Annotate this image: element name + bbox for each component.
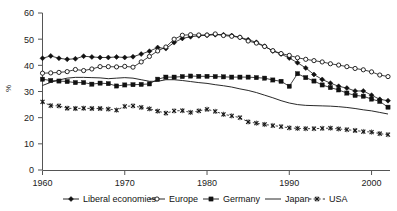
marker-circle [304, 57, 308, 61]
marker-square [361, 94, 365, 98]
legend-item-usa[interactable]: USA [309, 194, 348, 204]
marker-diamond [353, 88, 358, 93]
marker-square [40, 77, 44, 81]
marker-square [106, 82, 110, 86]
marker-circle [73, 67, 77, 71]
marker-square [209, 197, 213, 201]
marker-square [304, 76, 308, 80]
marker-circle [197, 33, 201, 37]
marker-diamond [56, 56, 61, 61]
marker-square [139, 82, 143, 86]
marker-square [197, 74, 201, 78]
line-chart: % 0102030405060 19601970198019902000 Lib… [0, 0, 397, 211]
marker-circle [98, 65, 102, 69]
marker-circle [131, 65, 135, 69]
marker-diamond [65, 57, 70, 62]
legend-item-japan[interactable]: Japan [265, 194, 310, 204]
marker-square [345, 91, 349, 95]
chart-container: % 0102030405060 19601970198019902000 Lib… [0, 0, 397, 211]
marker-circle [279, 51, 283, 55]
marker-circle [254, 41, 258, 45]
legend-label: Liberal economies [83, 194, 157, 204]
marker-square [230, 75, 234, 79]
marker-diamond [106, 55, 111, 60]
marker-circle [386, 74, 390, 78]
marker-circle [123, 64, 127, 68]
legend-item-germany[interactable]: Germany [203, 194, 261, 204]
marker-circle [156, 49, 160, 53]
marker-square [353, 93, 357, 97]
marker-square [287, 84, 291, 88]
marker-square [90, 82, 94, 86]
marker-square [295, 72, 299, 76]
legend-label: Europe [169, 194, 198, 204]
marker-diamond [48, 53, 53, 58]
y-tick-label: 30 [24, 87, 34, 97]
marker-x [238, 115, 242, 120]
legend-item-liberal-economies[interactable]: Liberal economies [63, 194, 157, 204]
marker-circle [287, 53, 291, 57]
marker-circle [378, 73, 382, 77]
marker-circle [205, 33, 209, 37]
marker-diamond [139, 52, 144, 57]
marker-diamond [73, 56, 78, 61]
y-axis-title-group: % [4, 85, 13, 92]
marker-diamond [114, 54, 119, 59]
marker-circle [369, 70, 373, 74]
marker-circle [230, 34, 234, 38]
marker-x [221, 112, 225, 117]
marker-circle [345, 65, 349, 69]
marker-square [386, 105, 390, 109]
marker-square [271, 78, 275, 82]
legend-label: Germany [223, 194, 261, 204]
legend-item-europe[interactable]: Europe [149, 194, 198, 204]
marker-diamond [361, 88, 366, 93]
marker-x [41, 99, 45, 104]
marker-circle [320, 60, 324, 64]
marker-diamond [344, 86, 349, 91]
marker-square [213, 74, 217, 78]
marker-square [320, 83, 324, 87]
marker-circle [271, 49, 275, 53]
y-tick-label: 60 [24, 8, 34, 18]
marker-square [172, 75, 176, 79]
marker-square [337, 88, 341, 92]
marker-square [73, 81, 77, 85]
marker-square [123, 83, 127, 87]
marker-circle [337, 63, 341, 67]
marker-circle [49, 71, 53, 75]
x-tick-label: 1980 [197, 178, 217, 188]
marker-diamond [81, 54, 86, 59]
marker-circle [114, 65, 118, 69]
x-axis: 19601970198019902000 [32, 171, 381, 189]
marker-circle [139, 60, 143, 64]
marker-square [221, 75, 225, 79]
marker-diamond [147, 49, 152, 54]
series-layer [40, 32, 391, 137]
marker-circle [263, 44, 267, 48]
marker-circle [295, 56, 299, 60]
y-tick-label: 40 [24, 61, 34, 71]
marker-circle [155, 197, 159, 201]
marker-circle [188, 33, 192, 37]
marker-square [238, 75, 242, 79]
marker-circle [221, 33, 225, 37]
marker-diamond [328, 81, 333, 86]
marker-square [205, 74, 209, 78]
marker-circle [90, 67, 94, 71]
marker-square [164, 75, 168, 79]
marker-square [369, 97, 373, 101]
marker-square [254, 76, 258, 80]
marker-circle [82, 68, 86, 72]
y-axis-title: % [4, 85, 13, 92]
marker-circle [328, 62, 332, 66]
series-usa [41, 99, 391, 137]
marker-x [123, 104, 127, 109]
marker-diamond [386, 98, 391, 103]
series-path [43, 34, 389, 77]
marker-circle [147, 54, 151, 58]
marker-circle [312, 59, 316, 63]
y-tick-label: 0 [29, 165, 34, 175]
chart-legend: Liberal economiesEuropeGermanyJapanUSA [63, 194, 348, 204]
legend-label: Japan [285, 194, 310, 204]
